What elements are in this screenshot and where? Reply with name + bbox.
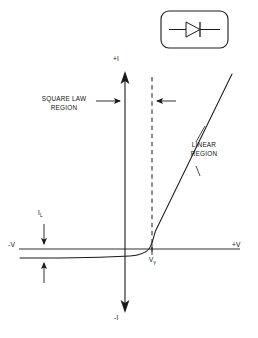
diode-symbol-icon [161, 11, 228, 48]
diagram-canvas [0, 0, 258, 338]
axis-label-negative-voltage: -V [8, 241, 15, 249]
diode-iv-characteristic-figure: +I -I +V -V SQUARE LAW REGION LINEAR REG… [0, 0, 258, 338]
square-law-region-label-line2: REGION [33, 104, 95, 112]
axis-label-positive-voltage: +V [232, 241, 241, 249]
knee-voltage-label-subscript: γ [153, 260, 155, 265]
axis-vertical-current [121, 71, 130, 313]
linear-region-label-line2: REGION [183, 150, 225, 158]
square-law-region-label-line1: SQUARE LAW [33, 95, 95, 103]
knee-voltage-label: Vγ [149, 256, 156, 267]
linear-region-label-line1: LINEAR [183, 141, 225, 149]
axis-label-positive-current: +I [113, 55, 119, 63]
leakage-current-label-subscript: L [40, 213, 43, 218]
leakage-current-label: IL [38, 209, 43, 220]
axis-label-negative-current: -I [114, 314, 118, 322]
